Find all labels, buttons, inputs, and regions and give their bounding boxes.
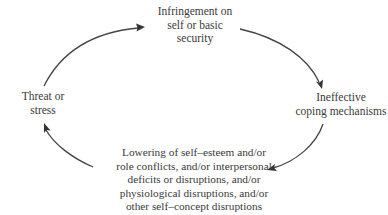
node-lowering-self-esteem: Lowering of self–esteem and/or role conf… [94,146,294,214]
node-threat-or-stress: Threat or stress [6,90,80,117]
node-infringement: Infringement on self or basic security [134,5,256,46]
node-ineffective-coping: Ineffective coping mechanisms [294,91,388,118]
arrow-left-to-top [44,24,145,87]
arrow-bottom-to-left [44,123,93,167]
